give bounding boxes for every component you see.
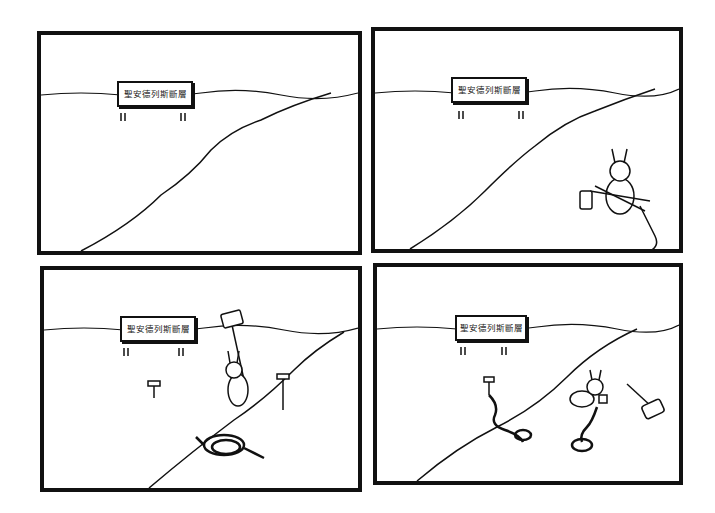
landscape-drawing [377, 267, 679, 481]
rabbit-with-mallet [221, 310, 248, 406]
stake-left [148, 381, 160, 398]
rabbit-carrying-tools [580, 149, 657, 249]
stake-right [277, 374, 289, 410]
landscape-drawing [44, 270, 358, 488]
fault-sign: 聖安德列斯斷層 [117, 81, 193, 107]
fault-sign: 聖安德列斯斷層 [455, 315, 527, 341]
fault-sign: 聖安德列斯斷層 [451, 77, 527, 103]
fault-sign: 聖安德列斯斷層 [120, 316, 196, 342]
comic-panel-4: 聖安德列斯斷層 [373, 263, 683, 485]
comic-panel-3: 聖安德列斯斷層 [40, 266, 362, 492]
coiled-rope [196, 435, 264, 458]
stake-left [484, 377, 494, 395]
mallet-on-ground [627, 384, 665, 420]
comic-panel-2: 聖安德列斯斷層 [371, 27, 683, 253]
landscape-drawing [375, 31, 679, 249]
landscape-drawing [41, 35, 358, 251]
rabbit-tying-rope [570, 370, 607, 407]
comic-panel-1: 聖安德列斯斷層 [37, 31, 362, 255]
